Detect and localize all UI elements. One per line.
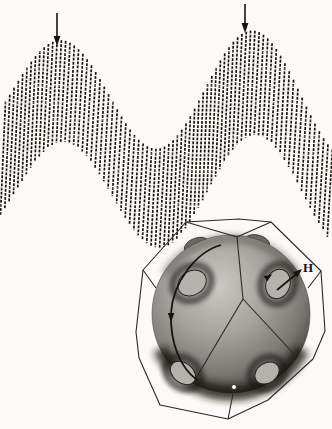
field-direction-label: H [303, 260, 313, 275]
physics-figure: H [0, 0, 332, 429]
zone-vertex-marker [232, 385, 237, 390]
figure-canvas: H [0, 0, 332, 429]
